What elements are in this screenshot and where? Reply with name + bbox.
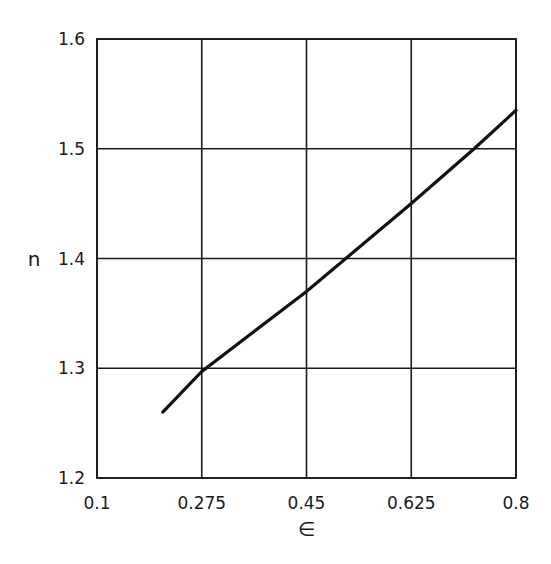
- x-tick-label: 0.275: [177, 493, 226, 513]
- grid-lines: [97, 39, 516, 478]
- x-axis-label: ∈: [298, 517, 315, 541]
- y-tick-label: 1.2: [58, 468, 85, 488]
- data-line: [163, 110, 516, 412]
- x-tick-label: 0.45: [288, 493, 326, 513]
- y-axis-tick-labels: 1.21.31.41.51.6: [58, 29, 85, 488]
- x-tick-label: 0.8: [502, 493, 529, 513]
- y-tick-label: 1.4: [58, 249, 85, 269]
- y-tick-label: 1.5: [58, 139, 85, 159]
- x-tick-label: 0.1: [83, 493, 110, 513]
- x-axis-tick-labels: 0.10.2750.450.6250.8: [83, 493, 529, 513]
- y-axis-label: n: [28, 247, 41, 271]
- y-tick-label: 1.6: [58, 29, 85, 49]
- x-tick-label: 0.625: [387, 493, 436, 513]
- chart: 0.10.2750.450.6250.8 1.21.31.41.51.6 ∈ n: [0, 0, 551, 564]
- y-tick-label: 1.3: [58, 358, 85, 378]
